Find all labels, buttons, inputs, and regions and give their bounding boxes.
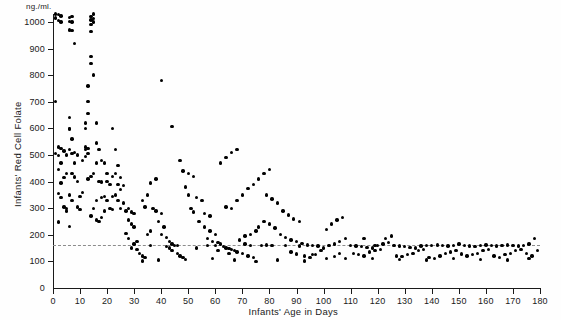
data-point [70, 20, 73, 23]
y-axis-tick-label: 500 [15, 151, 45, 160]
data-point [284, 236, 287, 239]
x-axis-tick-label: 130 [393, 297, 417, 306]
y-axis-tick [48, 182, 54, 183]
data-point [143, 205, 146, 208]
data-point [95, 141, 98, 144]
data-point [398, 244, 401, 247]
x-axis-tick-label: 90 [285, 297, 309, 306]
data-point [392, 244, 395, 247]
data-point [460, 252, 463, 255]
data-point [354, 244, 357, 247]
y-axis-tick-label: 200 [15, 231, 45, 240]
data-point [511, 244, 514, 247]
data-point [360, 245, 363, 248]
data-point [114, 193, 117, 196]
data-point [527, 257, 530, 260]
data-point [243, 234, 246, 237]
data-point [57, 168, 60, 171]
data-point [143, 256, 146, 259]
data-point [387, 241, 390, 244]
data-point [114, 172, 117, 175]
data-point [481, 249, 484, 252]
data-point [200, 199, 203, 202]
data-point [184, 185, 187, 188]
data-point [398, 258, 401, 261]
data-point [509, 252, 512, 255]
data-point [76, 153, 79, 156]
x-axis-tick [324, 288, 325, 294]
data-point [154, 177, 157, 180]
data-point [92, 73, 95, 76]
data-point [149, 229, 152, 232]
data-point [536, 249, 539, 252]
data-point [130, 246, 133, 249]
data-point [322, 246, 325, 249]
data-point [195, 246, 198, 249]
data-point [276, 201, 279, 204]
data-point [384, 237, 387, 240]
data-point [249, 233, 252, 236]
data-point [62, 176, 65, 179]
x-axis-tick-label: 80 [257, 297, 281, 306]
x-axis-tick [540, 288, 541, 294]
data-point [97, 220, 100, 223]
data-point [111, 127, 114, 130]
data-point [298, 244, 301, 247]
data-point [230, 151, 233, 154]
data-point [527, 242, 530, 245]
data-point [268, 168, 271, 171]
x-axis-tick [53, 288, 54, 294]
data-point [105, 199, 108, 202]
data-point [438, 254, 441, 257]
y-axis-tick [48, 235, 54, 236]
data-point [303, 259, 306, 262]
data-point [157, 258, 160, 261]
data-point [341, 216, 344, 219]
data-point [92, 20, 95, 23]
data-point [357, 253, 360, 256]
x-axis-tick-label: 180 [528, 297, 552, 306]
data-point [86, 100, 89, 103]
data-point [132, 212, 135, 215]
data-point [89, 214, 92, 217]
data-point [425, 258, 428, 261]
data-point [381, 242, 384, 245]
data-point [86, 112, 89, 115]
data-point [241, 193, 244, 196]
data-point [476, 252, 479, 255]
x-axis-tick-label: 70 [230, 297, 254, 306]
data-point [436, 243, 439, 246]
data-point [68, 193, 71, 196]
x-axis-tick-label: 40 [149, 297, 173, 306]
data-point [425, 244, 428, 247]
data-point [59, 20, 62, 23]
data-point [105, 172, 108, 175]
data-point [78, 195, 81, 198]
data-point [108, 183, 111, 186]
data-point [314, 253, 317, 256]
data-point [95, 161, 98, 164]
data-point [86, 177, 89, 180]
y-axis-unit-label: ng./ml. [26, 3, 51, 11]
data-point [338, 240, 341, 243]
data-point [189, 207, 192, 210]
data-point [503, 253, 506, 256]
data-point [235, 250, 238, 253]
data-point [246, 254, 249, 257]
x-axis-tick-label: 110 [339, 297, 363, 306]
data-point [279, 233, 282, 236]
data-point [165, 236, 168, 239]
y-axis-tick [48, 22, 54, 23]
data-point [500, 244, 503, 247]
data-point [103, 161, 106, 164]
y-axis-tick-label: 100 [15, 257, 45, 266]
x-axis-tick-label: 30 [122, 297, 146, 306]
data-point [441, 244, 444, 247]
data-point [506, 243, 509, 246]
data-point [203, 225, 206, 228]
data-point [114, 148, 117, 151]
data-point [141, 259, 144, 262]
data-point [122, 184, 125, 187]
data-point [157, 220, 160, 223]
data-point [162, 225, 165, 228]
